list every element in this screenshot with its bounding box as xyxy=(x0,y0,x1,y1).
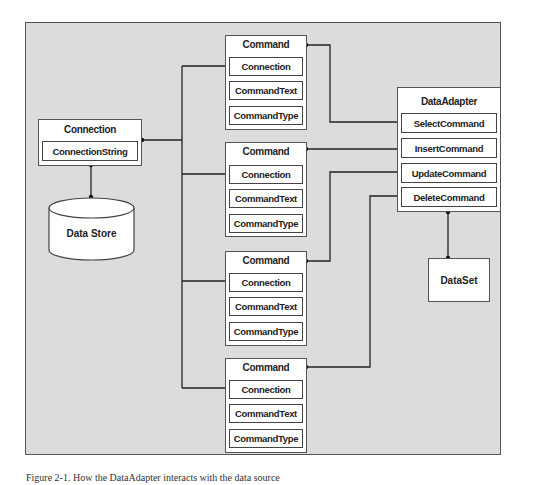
command-type-field: CommandType xyxy=(229,429,303,448)
select-command-field: SelectCommand xyxy=(401,113,497,133)
command-title: Command xyxy=(226,362,306,373)
command-box-2: Command Connection CommandText CommandTy… xyxy=(225,142,307,237)
command-text-field: CommandText xyxy=(229,297,303,316)
delete-command-field: DeleteCommand xyxy=(401,187,497,207)
command-connection-field: Connection xyxy=(229,273,303,292)
command-type-field: CommandType xyxy=(229,214,303,233)
connection-title: Connection xyxy=(39,124,141,135)
command-text-field: CommandText xyxy=(229,189,303,208)
command-box-4: Command Connection CommandText CommandTy… xyxy=(225,358,307,453)
command-connection-field: Connection xyxy=(229,165,303,184)
command-text-field: CommandText xyxy=(229,81,303,100)
dataset-label: DataSet xyxy=(440,275,477,286)
command-type-field: CommandType xyxy=(229,106,303,125)
command-connection-field: Connection xyxy=(229,380,303,399)
command-box-1: Command Connection CommandText CommandTy… xyxy=(225,35,307,130)
command-title: Command xyxy=(226,146,306,157)
connection-box: Connection ConnectionString xyxy=(38,119,142,166)
data-adapter-title: DataAdapter xyxy=(398,96,500,107)
insert-command-field: InsertCommand xyxy=(401,138,497,158)
command-title: Command xyxy=(226,39,306,50)
command-title: Command xyxy=(226,255,306,266)
data-store-label: Data Store xyxy=(49,228,134,239)
command-type-field: CommandType xyxy=(229,322,303,341)
dataset-box: DataSet xyxy=(428,258,490,302)
command-text-field: CommandText xyxy=(229,404,303,423)
connection-string-field: ConnectionString xyxy=(42,141,138,161)
command-connection-field: Connection xyxy=(229,57,303,76)
data-adapter-box: DataAdapter SelectCommand InsertCommand … xyxy=(397,87,501,212)
command-box-3: Command Connection CommandText CommandTy… xyxy=(225,251,307,346)
update-command-field: UpdateCommand xyxy=(401,163,497,183)
figure-caption: Figure 2-1. How the DataAdapter interact… xyxy=(26,472,280,483)
